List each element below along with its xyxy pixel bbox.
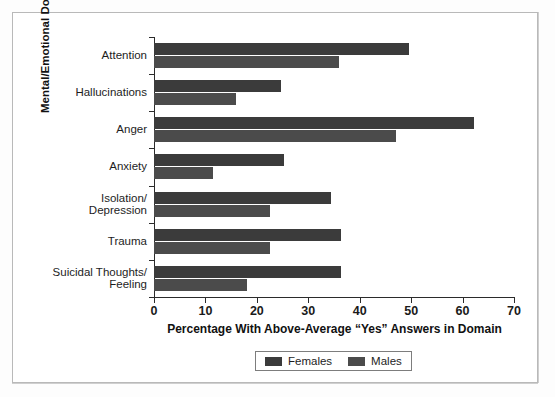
x-tick [514, 297, 515, 303]
x-tick-label: 10 [198, 304, 212, 318]
y-tick [149, 260, 154, 261]
x-tick-label: 40 [353, 304, 367, 318]
category-label: Trauma [108, 235, 147, 248]
legend-label-females: Females [288, 355, 332, 367]
bar-females [154, 266, 341, 278]
x-tick-label: 70 [507, 304, 521, 318]
x-tick [257, 297, 258, 303]
legend-swatch-males [348, 357, 365, 366]
bar-chart: Mental/Emotional Domain AttentionHalluci… [13, 13, 539, 384]
y-axis-title: Mental/Emotional Domain [39, 0, 51, 113]
category-label: Attention [102, 49, 147, 62]
bar-males [154, 279, 247, 291]
bar-females [154, 229, 341, 241]
x-tick-label: 20 [250, 304, 264, 318]
bar-females [154, 43, 409, 55]
y-tick [149, 111, 154, 112]
y-tick [149, 186, 154, 187]
x-tick [463, 297, 464, 303]
bar-females [154, 154, 284, 166]
category-label: Isolation/Depression [89, 192, 147, 217]
bar-group: Attention [154, 41, 514, 72]
bar-group: Anxiety [154, 152, 514, 183]
x-tick-label: 50 [404, 304, 418, 318]
bar-males [154, 56, 339, 68]
plot-area: AttentionHallucinationsAngerAnxietyIsola… [154, 37, 514, 297]
x-tick [411, 297, 412, 303]
x-tick-label: 0 [151, 304, 158, 318]
y-tick [149, 148, 154, 149]
x-tick [154, 297, 155, 303]
bar-group: Trauma [154, 227, 514, 258]
bar-group: Hallucinations [154, 78, 514, 109]
chart-page: Mental/Emotional Domain AttentionHalluci… [0, 0, 555, 397]
y-tick [149, 223, 154, 224]
category-label: Suicidal Thoughts/Feeling [53, 266, 147, 291]
category-label: Anxiety [109, 160, 147, 173]
legend-label-males: Males [371, 355, 402, 367]
category-label: Anger [116, 123, 147, 136]
legend-item-males: Males [348, 355, 402, 367]
figure-frame: Mental/Emotional Domain AttentionHalluci… [12, 12, 538, 383]
bar-males [154, 242, 270, 254]
legend-item-females: Females [265, 355, 332, 367]
bar-group: Anger [154, 115, 514, 146]
bar-males [154, 93, 236, 105]
x-tick-label: 60 [456, 304, 470, 318]
y-tick [149, 74, 154, 75]
bar-males [154, 130, 396, 142]
bar-males [154, 167, 213, 179]
bar-females [154, 117, 474, 129]
category-label: Hallucinations [75, 86, 147, 99]
y-tick [149, 37, 154, 38]
bar-group: Isolation/Depression [154, 190, 514, 221]
x-tick [360, 297, 361, 303]
x-tick [308, 297, 309, 303]
x-axis-line [154, 297, 515, 298]
bar-males [154, 205, 270, 217]
bar-females [154, 80, 281, 92]
y-axis-title-wrap: Mental/Emotional Domain [45, 53, 65, 273]
x-tick [205, 297, 206, 303]
bar-group: Suicidal Thoughts/Feeling [154, 264, 514, 295]
x-tick-label: 30 [301, 304, 315, 318]
bar-females [154, 192, 331, 204]
legend-swatch-females [265, 357, 282, 366]
x-axis-title: Percentage With Above-Average “Yes” Answ… [154, 322, 515, 336]
chart-legend: Females Males [255, 351, 412, 371]
